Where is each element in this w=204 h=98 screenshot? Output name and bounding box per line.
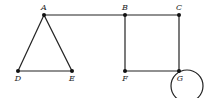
loops-group (171, 70, 203, 98)
vertex-d (16, 69, 20, 73)
vertex-g (177, 69, 181, 73)
vertex-f (123, 69, 127, 73)
edge-a-e (44, 15, 72, 71)
vertex-label-g: G (177, 74, 184, 83)
edges-group (18, 15, 179, 71)
vertex-label-a: A (40, 3, 47, 12)
edge-a-d (18, 15, 44, 71)
loop-g (171, 70, 203, 98)
vertex-label-e: E (68, 74, 75, 83)
vertex-label-b: B (121, 3, 128, 12)
vertex-e (70, 69, 74, 73)
graph-diagram: ABCDEFG (0, 0, 204, 98)
vertex-b (123, 13, 127, 17)
vertex-c (177, 13, 181, 17)
vertex-label-d: D (14, 74, 22, 83)
vertex-a (42, 13, 46, 17)
vertex-label-c: C (176, 3, 182, 12)
vertex-label-f: F (121, 74, 128, 83)
